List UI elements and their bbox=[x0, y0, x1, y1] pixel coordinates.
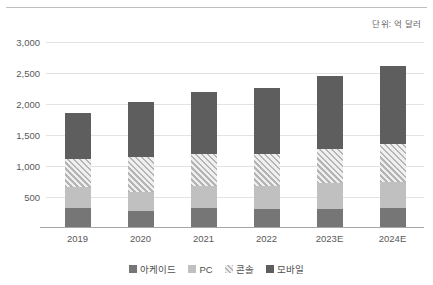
bar-segment-pc[interactable] bbox=[254, 186, 280, 209]
bar-segment-mobile[interactable] bbox=[254, 88, 280, 154]
x-axis-line bbox=[40, 227, 424, 228]
legend-item-mobile[interactable]: 모바일 bbox=[266, 262, 304, 276]
bar-segment-pc[interactable] bbox=[191, 186, 217, 208]
bar-segment-console[interactable] bbox=[380, 144, 406, 181]
bar-column[interactable] bbox=[317, 76, 343, 228]
bar-segment-mobile[interactable] bbox=[65, 113, 91, 159]
legend-item-console[interactable]: 콘솔 bbox=[225, 262, 254, 276]
legend-label: 모바일 bbox=[277, 262, 304, 276]
legend-swatch-mobile-icon bbox=[266, 265, 274, 273]
legend-label: PC bbox=[199, 264, 212, 275]
legend-swatch-console-icon bbox=[225, 265, 233, 273]
y-axis-labels: 3,0002,5002,0001,5001,000500 bbox=[0, 0, 46, 285]
bar-segment-pc[interactable] bbox=[380, 182, 406, 209]
bar-segment-console[interactable] bbox=[65, 159, 91, 187]
bar-segment-arcade[interactable] bbox=[191, 208, 217, 228]
bar-column[interactable] bbox=[191, 92, 217, 228]
bar-segment-mobile[interactable] bbox=[128, 102, 154, 158]
bar-segment-pc[interactable] bbox=[65, 187, 91, 207]
bar-segment-console[interactable] bbox=[254, 154, 280, 186]
plot-area bbox=[46, 42, 424, 228]
bar-segment-mobile[interactable] bbox=[380, 66, 406, 144]
x-axis-tick-label: 2021 bbox=[193, 233, 214, 244]
bar-segment-mobile[interactable] bbox=[317, 76, 343, 149]
y-axis-tick-label: 2,000 bbox=[16, 99, 40, 110]
chart-legend: 아케이드PC콘솔모바일 bbox=[0, 262, 433, 276]
bar-segment-arcade[interactable] bbox=[128, 211, 154, 228]
bar-segment-arcade[interactable] bbox=[317, 209, 343, 228]
bar-segment-pc[interactable] bbox=[317, 183, 343, 209]
y-axis-tick-label: 2,500 bbox=[16, 68, 40, 79]
top-divider bbox=[6, 7, 427, 8]
x-axis-tick-label: 2020 bbox=[130, 233, 151, 244]
legend-swatch-arcade-icon bbox=[129, 265, 137, 273]
y-axis-tick-label: 500 bbox=[24, 192, 40, 203]
y-axis-tick-label: 3,000 bbox=[16, 37, 40, 48]
bar-segment-console[interactable] bbox=[128, 157, 154, 191]
x-axis-tick-label: 2022 bbox=[256, 233, 277, 244]
bar-column[interactable] bbox=[128, 102, 154, 228]
bar-column[interactable] bbox=[65, 113, 91, 228]
y-axis-tick-label: 1,000 bbox=[16, 161, 40, 172]
y-axis-tick-label: 1,500 bbox=[16, 130, 40, 141]
bar-series-container bbox=[46, 42, 424, 228]
bar-segment-arcade[interactable] bbox=[254, 209, 280, 228]
legend-label: 아케이드 bbox=[140, 262, 176, 276]
bar-segment-console[interactable] bbox=[191, 154, 217, 187]
x-axis-labels: 20192020202120222023E2024E bbox=[46, 233, 424, 251]
stacked-bar-chart: 단위: 억 달러 3,0002,5002,0001,5001,000500 20… bbox=[0, 0, 433, 285]
legend-swatch-pc-icon bbox=[188, 265, 196, 273]
x-axis-tick-label: 2024E bbox=[379, 233, 406, 244]
unit-note-label: 단위: 억 달러 bbox=[372, 17, 421, 29]
bar-segment-arcade[interactable] bbox=[65, 208, 91, 228]
legend-item-pc[interactable]: PC bbox=[188, 264, 212, 275]
bar-column[interactable] bbox=[380, 66, 406, 228]
x-axis-tick-label: 2019 bbox=[67, 233, 88, 244]
legend-label: 콘솔 bbox=[236, 262, 254, 276]
bar-column[interactable] bbox=[254, 88, 280, 228]
legend-item-arcade[interactable]: 아케이드 bbox=[129, 262, 176, 276]
bar-segment-mobile[interactable] bbox=[191, 92, 217, 154]
x-axis-tick-label: 2023E bbox=[316, 233, 343, 244]
bar-segment-arcade[interactable] bbox=[380, 208, 406, 228]
bar-segment-console[interactable] bbox=[317, 149, 343, 183]
bar-segment-pc[interactable] bbox=[128, 192, 154, 212]
